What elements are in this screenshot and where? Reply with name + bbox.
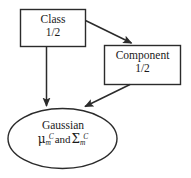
node-class-shape[interactable] <box>21 10 86 47</box>
diagram-graphics <box>0 0 191 178</box>
node-component-shape[interactable] <box>105 46 181 85</box>
node-gaussian-shape[interactable] <box>8 109 117 169</box>
edge-class-to-component <box>86 21 132 44</box>
edge-component-to-gaussian <box>85 85 130 107</box>
diagram-canvas: Class 1/2 Component 1/2 Gaussian μmCandΣ… <box>0 0 191 178</box>
